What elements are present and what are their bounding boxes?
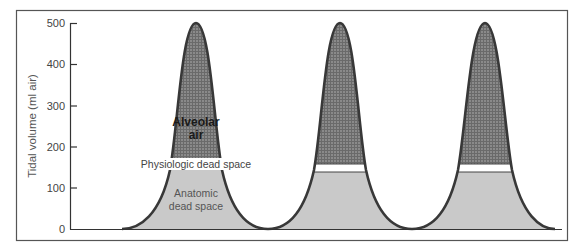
anatomic-dead-space-breath-2	[268, 172, 412, 235]
y-tick-labels: 500 400 300 200 100 0	[47, 17, 65, 235]
physiologic-dead-space-label: Physiologic dead space	[141, 158, 251, 170]
anatomic-dead-space-label-line2: dead space	[169, 200, 223, 212]
physiologic-dead-space-band-breath-3	[412, 164, 562, 172]
physiologic-dead-space-band-breath-2	[268, 164, 412, 172]
tick-label-200: 200	[47, 141, 65, 153]
tick-label-100: 100	[47, 182, 65, 194]
diagram-container: 500 400 300 200 100 0 Tidal volume (ml a…	[0, 0, 585, 248]
tick-label-400: 400	[47, 58, 65, 70]
tick-label-0: 0	[59, 223, 65, 235]
tick-label-500: 500	[47, 17, 65, 29]
anatomic-dead-space-breath-3	[412, 172, 562, 235]
alveolar-air-label-line2: air	[189, 128, 204, 142]
alveolar-air-label-line1: Alveolar	[172, 115, 220, 129]
y-axis-label: Tidal volume (ml air)	[26, 74, 38, 178]
anatomic-dead-space-label-line1: Anatomic	[174, 187, 218, 199]
tick-label-300: 300	[47, 100, 65, 112]
